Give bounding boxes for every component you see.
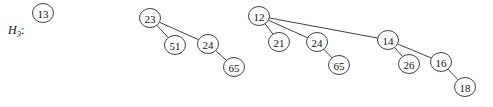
- node-key-label: 14: [383, 35, 395, 47]
- node-key-label: 51: [170, 40, 181, 52]
- heap-node[interactable]: 12: [249, 7, 270, 26]
- heap-node[interactable]: 24: [307, 33, 328, 52]
- heap-node[interactable]: 51: [165, 36, 186, 55]
- tree-edge: [216, 51, 227, 61]
- heap-node[interactable]: 65: [224, 58, 245, 77]
- tree-edge: [448, 69, 458, 80]
- heap-node[interactable]: 18: [455, 78, 476, 97]
- tree-nodes-tree-order-2: 23512465: [140, 9, 245, 77]
- node-key-label: 24: [203, 39, 215, 51]
- heap-node[interactable]: 65: [329, 56, 350, 75]
- heap-node[interactable]: 13: [33, 4, 54, 23]
- heap-label-layer: H3:: [7, 23, 24, 39]
- heap-label-colon: :: [21, 23, 24, 37]
- tree-edges-tree-order-3: [265, 18, 458, 80]
- tree-edge: [265, 24, 273, 34]
- node-key-label: 12: [254, 11, 265, 23]
- node-key-label: 26: [404, 59, 416, 71]
- heap-node[interactable]: 16: [431, 53, 452, 72]
- tree-edge: [157, 25, 169, 37]
- binomial-heap-canvas: 13235124651221246514261618 H3:: [0, 0, 493, 107]
- tree-edge: [324, 49, 332, 58]
- tree-edge: [395, 47, 403, 56]
- binomial-heap-figure: 13235124651221246514261618 H3:: [0, 0, 493, 107]
- node-key-label: 23: [145, 13, 157, 25]
- heap-node[interactable]: 23: [140, 9, 161, 28]
- node-key-label: 18: [460, 82, 472, 94]
- node-key-label: 13: [38, 8, 50, 20]
- heap-node[interactable]: 26: [399, 55, 420, 74]
- node-key-label: 65: [334, 60, 346, 72]
- node-key-label: 16: [436, 57, 448, 69]
- heap-node[interactable]: 24: [198, 35, 219, 54]
- node-key-label: 21: [274, 37, 285, 49]
- node-key-label: 65: [229, 62, 241, 74]
- nodes-layer: 13235124651221246514261618: [33, 4, 476, 97]
- tree-nodes-tree-order-0: 13: [33, 4, 54, 23]
- heap-node[interactable]: 14: [378, 31, 399, 50]
- node-key-label: 24: [312, 37, 324, 49]
- heap-label: H3:: [7, 23, 24, 39]
- heap-node[interactable]: 21: [269, 33, 290, 52]
